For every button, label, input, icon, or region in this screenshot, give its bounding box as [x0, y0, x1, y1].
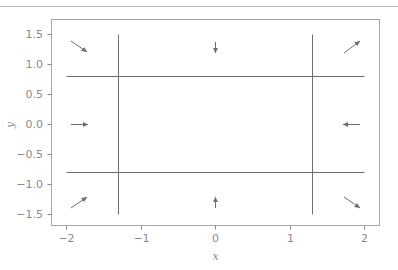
plot-svg: 1.5 1.0 0.5 0.0 −0.5 −1.0 −1.5 y −2 −1 0…	[0, 8, 398, 270]
x-tick-label-2: 2	[361, 232, 368, 245]
x-axis-ticks	[67, 226, 365, 230]
y-tick-label-0-5: 0.5	[26, 88, 44, 101]
nullcline-group	[67, 35, 365, 215]
x-tick-label-1: 1	[287, 232, 294, 245]
arrow-bottom-left	[71, 197, 87, 208]
y-tick-label-1-5: 1.5	[26, 28, 44, 41]
x-tick-label-neg-1: −1	[133, 232, 149, 245]
y-tick-label-neg-1-0: −1.0	[16, 178, 43, 191]
y-tick-label-neg-0-5: −0.5	[16, 148, 43, 161]
y-tick-label-0-0: 0.0	[26, 118, 44, 131]
y-tick-label-1-0: 1.0	[26, 58, 44, 71]
y-tick-label-neg-1-5: −1.5	[16, 208, 43, 221]
x-axis-title: x	[212, 250, 219, 263]
top-divider-rule	[0, 6, 398, 7]
phase-plane-figure: 1.5 1.0 0.5 0.0 −0.5 −1.0 −1.5 y −2 −1 0…	[0, 8, 398, 270]
y-axis-ticks	[48, 35, 52, 215]
x-tick-label-neg-2: −2	[58, 232, 74, 245]
arrow-top-left	[71, 41, 87, 52]
y-axis-title: y	[4, 121, 17, 129]
arrow-top-right	[344, 41, 360, 53]
x-tick-label-0: 0	[212, 232, 219, 245]
direction-field-arrows	[71, 41, 360, 208]
arrow-bottom-right	[344, 197, 360, 208]
